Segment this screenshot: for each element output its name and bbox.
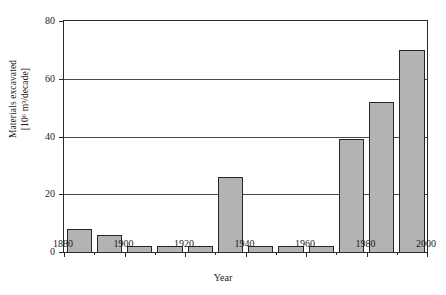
y-tick-80 <box>59 21 64 22</box>
x-tick-minor-1970 <box>336 252 337 255</box>
x-tick-label-1880: 1880 <box>41 239 85 249</box>
x-tick-label-1940: 1940 <box>223 239 267 249</box>
x-tick-label-2000: 2000 <box>404 239 446 249</box>
x-tick-1980 <box>367 252 368 257</box>
chart-figure: Materials excavated [10⁶ m³/decade] 0204… <box>0 0 446 295</box>
x-tick-label-1980: 1980 <box>344 239 388 249</box>
bar-1980 <box>369 102 394 252</box>
x-tick-1880 <box>64 252 65 257</box>
gridline-y-60 <box>64 79 427 80</box>
y-tick-60 <box>59 79 64 80</box>
x-tick-label-1900: 1900 <box>102 239 146 249</box>
x-tick-1920 <box>185 252 186 257</box>
x-tick-1960 <box>306 252 307 257</box>
y-tick-20 <box>59 194 64 195</box>
x-axis-title: Year <box>0 272 446 283</box>
x-tick-label-1960: 1960 <box>283 239 327 249</box>
y-tick-label-60: 60 <box>15 74 55 84</box>
bar-1970 <box>339 139 364 252</box>
x-tick-1940 <box>246 252 247 257</box>
plot-area: 020406080 <box>63 20 428 253</box>
x-tick-minor-1890 <box>94 252 95 255</box>
x-tick-label-1920: 1920 <box>162 239 206 249</box>
bar-1990 <box>399 50 424 252</box>
y-tick-label-40: 40 <box>15 132 55 142</box>
y-axis-title-line1: Materials excavated <box>7 0 19 199</box>
y-tick-label-20: 20 <box>15 189 55 199</box>
x-tick-minor-1950 <box>276 252 277 255</box>
y-axis-title-line2: [10⁶ m³/decade] <box>19 0 31 199</box>
x-tick-minor-1990 <box>397 252 398 255</box>
x-tick-2000 <box>427 252 428 257</box>
y-tick-40 <box>59 137 64 138</box>
y-tick-label-80: 80 <box>15 16 55 26</box>
x-tick-minor-1910 <box>155 252 156 255</box>
x-tick-1900 <box>125 252 126 257</box>
x-tick-minor-1930 <box>215 252 216 255</box>
y-axis-title: Materials excavated [10⁶ m³/decade] <box>7 0 37 199</box>
